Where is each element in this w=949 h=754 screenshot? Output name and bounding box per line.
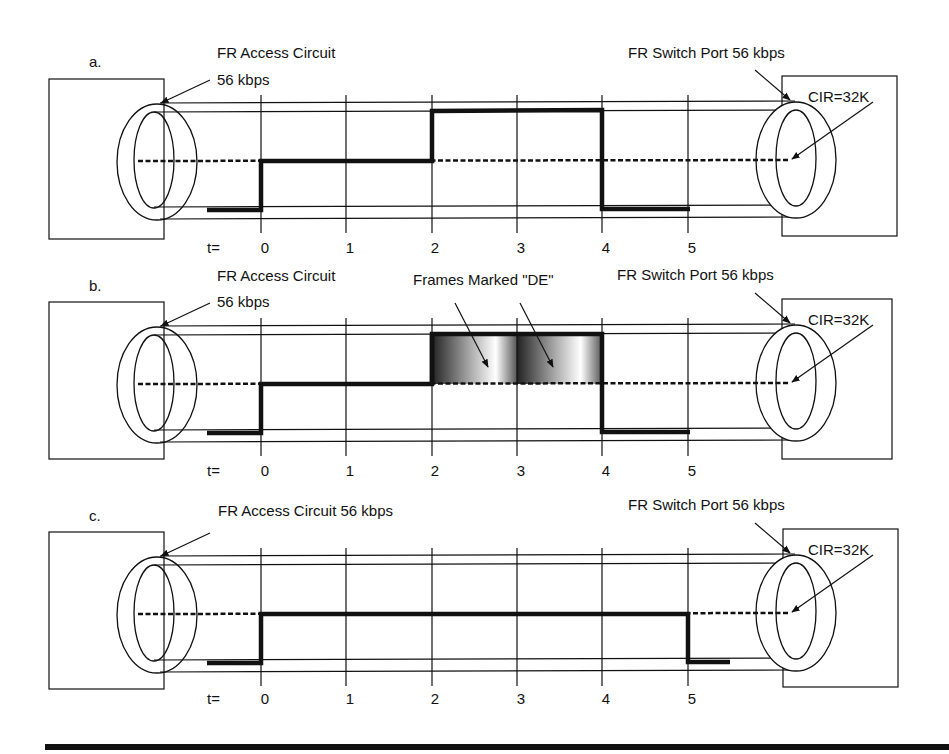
- tick-label: 4: [596, 239, 616, 256]
- tick-label: 5: [682, 690, 702, 707]
- panel-a: [49, 70, 897, 239]
- access-circuit-label: FR Access Circuit 56 kbps: [218, 502, 393, 519]
- time-prefix: t=: [207, 239, 220, 256]
- bottom-rule: [45, 744, 949, 750]
- access-circuit-rate: 56 kbps: [217, 293, 270, 310]
- panel-label-a: a.: [89, 53, 102, 70]
- tick-label: 0: [255, 239, 275, 256]
- tick-label: 3: [511, 239, 531, 256]
- switch-port-label: FR Switch Port 56 kbps: [617, 266, 774, 283]
- tick-label: 0: [255, 462, 275, 479]
- tick-label: 1: [340, 239, 360, 256]
- tick-label: 2: [425, 462, 445, 479]
- tick-label: 1: [340, 690, 360, 707]
- panel-label-c: c.: [89, 507, 101, 524]
- de-frames-region-2: [517, 334, 602, 384]
- frame-relay-cir-diagram: [0, 0, 949, 754]
- panel-c: [49, 523, 898, 689]
- time-prefix: t=: [207, 462, 220, 479]
- tick-label: 3: [511, 462, 531, 479]
- access-circuit-label: FR Access Circuit: [217, 267, 335, 284]
- time-prefix: t=: [207, 690, 220, 707]
- tick-label: 0: [255, 690, 275, 707]
- panel-label-b: b.: [89, 277, 102, 294]
- tick-label: 2: [425, 690, 445, 707]
- access-circuit-label: FR Access Circuit: [217, 44, 335, 61]
- de-frames-label: Frames Marked "DE": [413, 271, 554, 288]
- switch-port-label: FR Switch Port 56 kbps: [628, 496, 785, 513]
- tick-label: 5: [682, 239, 702, 256]
- cir-label: CIR=32K: [808, 541, 869, 558]
- cir-label: CIR=32K: [808, 311, 869, 328]
- tick-label: 1: [340, 462, 360, 479]
- time-grid: [261, 95, 688, 233]
- cir-label: CIR=32K: [808, 88, 869, 105]
- cir-dashed-line: [138, 160, 790, 161]
- tick-label: 5: [682, 462, 702, 479]
- tick-label: 2: [425, 239, 445, 256]
- tick-label: 4: [596, 690, 616, 707]
- switch-port-label: FR Switch Port 56 kbps: [628, 44, 785, 61]
- user-device-box: [49, 79, 164, 239]
- panel-b: [49, 293, 892, 459]
- tick-label: 3: [511, 690, 531, 707]
- access-circuit-rate: 56 kbps: [217, 71, 270, 88]
- tick-label: 4: [596, 462, 616, 479]
